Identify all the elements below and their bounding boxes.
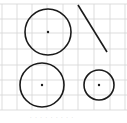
center-dot xyxy=(98,84,100,86)
grid-diagram xyxy=(0,0,127,123)
center-dot xyxy=(41,84,43,86)
figure-caption: · · · · · · · · · xyxy=(30,114,110,120)
center-dot xyxy=(47,31,49,33)
diagonal-line xyxy=(78,5,107,52)
figure: · · · · · · · · · xyxy=(0,0,127,123)
